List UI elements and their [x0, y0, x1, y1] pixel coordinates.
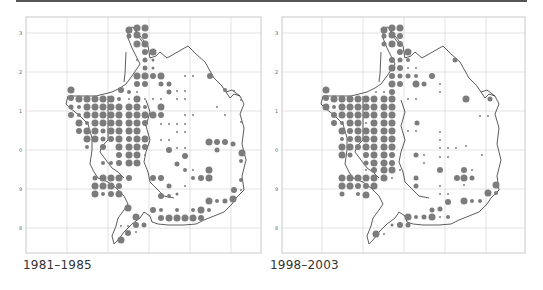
occurrence-dots — [68, 25, 246, 244]
x-tick: 4 — [444, 255, 447, 256]
occurrence-dots — [323, 25, 500, 238]
x-tick: 5 — [485, 255, 488, 256]
distribution-map-left: 1 2 3 4 5 3 2 1 0 9 8 — [0, 0, 270, 256]
x-tick: 2 — [107, 255, 110, 256]
y-tick: 8 — [275, 225, 278, 231]
x-tick: 1 — [66, 255, 69, 256]
map-panel-1981-1985: 1 2 3 4 5 3 2 1 0 9 8 — [0, 0, 270, 256]
y-tick: 2 — [19, 69, 22, 75]
x-tick: 1 — [321, 255, 324, 256]
y-tick: 0 — [275, 147, 278, 153]
coastline-outline — [321, 27, 501, 244]
y-tick: 3 — [275, 30, 278, 36]
x-tick: 3 — [403, 255, 406, 256]
x-tick: 3 — [148, 255, 151, 256]
y-tick: 9 — [19, 186, 22, 192]
y-tick: 1 — [19, 108, 22, 114]
coastline-outline — [66, 27, 246, 244]
x-tick: 2 — [362, 255, 365, 256]
y-tick: 1 — [275, 108, 278, 114]
y-tick: 8 — [19, 225, 22, 231]
y-tick: 2 — [275, 69, 278, 75]
x-tick: 5 — [230, 255, 233, 256]
x-tick: 4 — [189, 255, 192, 256]
panel-caption-right: 1998–2003 — [270, 258, 339, 272]
map-panel-1998-2003: 1 2 3 4 5 3 2 1 0 9 8 — [255, 0, 543, 256]
panel-caption-left: 1981–1985 — [23, 258, 92, 272]
y-tick: 3 — [19, 30, 22, 36]
y-tick: 9 — [275, 186, 278, 192]
y-tick: 0 — [19, 147, 22, 153]
distribution-map-right: 1 2 3 4 5 3 2 1 0 9 8 — [255, 0, 543, 256]
